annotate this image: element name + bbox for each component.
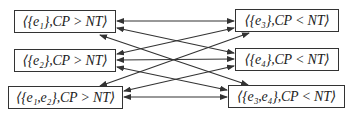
node-l1: ⟨{e₁},CP > NT⟩: [14, 10, 116, 33]
node-r3: ⟨{e₃,e₄},CP < NT⟩: [228, 85, 345, 108]
node-label: ⟨{e₃},CP < NT⟩: [244, 12, 329, 29]
node-label: ⟨{e₂},CP > NT⟩: [22, 52, 107, 69]
node-label: ⟨{e₁},CP > NT⟩: [22, 13, 107, 30]
node-label: ⟨{e₃,e₄},CP < NT⟩: [237, 88, 336, 105]
node-r2: ⟨{e₄},CP < NT⟩: [235, 48, 339, 71]
edge-l2-r3: [117, 67, 227, 90]
node-label: ⟨{e₁,e₂},CP > NT⟩: [16, 89, 115, 106]
node-l2: ⟨{e₂},CP > NT⟩: [14, 49, 116, 72]
edge-l3-r2: [124, 66, 234, 91]
node-r1: ⟨{e₃},CP < NT⟩: [235, 9, 339, 32]
node-label: ⟨{e₄},CP < NT⟩: [244, 51, 329, 68]
node-l3: ⟨{e₁,e₂},CP > NT⟩: [8, 86, 123, 109]
